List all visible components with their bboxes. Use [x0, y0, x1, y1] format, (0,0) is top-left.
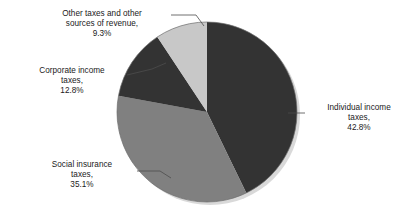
- pie-label-social-insurance-taxes: Social insurance taxes, 35.1%: [24, 160, 140, 191]
- pie-label-other-taxes-value: 9.3%: [32, 29, 172, 39]
- pie-label-individual-income-taxes-line2: taxes,: [307, 113, 411, 123]
- pie-label-corporate-income-taxes: Corporate income taxes, 12.8%: [14, 66, 130, 97]
- pie-label-other-taxes: Other taxes and other sources of revenue…: [32, 9, 172, 40]
- pie-label-corporate-income-taxes-value: 12.8%: [14, 86, 130, 96]
- pie-label-corporate-income-taxes-line1: Corporate income: [14, 66, 130, 76]
- pie-label-individual-income-taxes: Individual income taxes, 42.8%: [307, 103, 411, 134]
- pie-label-individual-income-taxes-line1: Individual income: [307, 103, 411, 113]
- pie-label-corporate-income-taxes-line2: taxes,: [14, 76, 130, 86]
- pie-label-social-insurance-taxes-line2: taxes,: [24, 170, 140, 180]
- pie-label-other-taxes-line2: sources of revenue,: [32, 19, 172, 29]
- pie-chart-figure: Other taxes and other sources of revenue…: [0, 0, 417, 216]
- pie-label-individual-income-taxes-value: 42.8%: [307, 123, 411, 133]
- pie-label-social-insurance-taxes-line1: Social insurance: [24, 160, 140, 170]
- pie-label-other-taxes-line1: Other taxes and other: [32, 9, 172, 19]
- pie-label-social-insurance-taxes-value: 35.1%: [24, 180, 140, 190]
